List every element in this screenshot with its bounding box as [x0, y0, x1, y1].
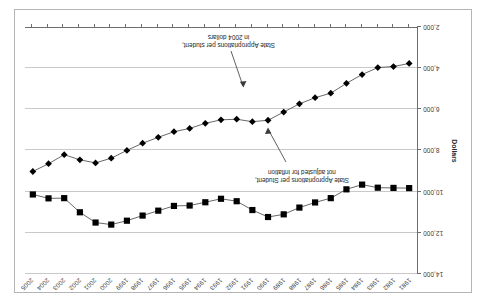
data-point-diamond [139, 140, 146, 147]
data-point-square [249, 207, 255, 213]
x-tick-label: 1994 [193, 277, 208, 292]
x-tick-label: 1989 [272, 277, 287, 292]
data-series-layer [25, 28, 417, 274]
y-tick-label: 4,000 [423, 65, 440, 72]
nominal-annotation-line1: State Appropriations per Student, [255, 176, 349, 184]
x-tick-label: 1985 [335, 277, 350, 292]
y-tick-mark [417, 26, 421, 27]
y-tick-label: 10,000 [423, 188, 443, 195]
data-point-diamond [61, 151, 68, 158]
x-tick-label: 1992 [225, 277, 240, 292]
data-point-diamond [45, 160, 52, 167]
data-point-square [265, 214, 271, 220]
data-point-diamond [76, 156, 83, 163]
data-point-square [375, 185, 381, 191]
data-point-square [202, 199, 208, 205]
y-tick-mark [417, 232, 421, 233]
data-point-square [92, 219, 98, 225]
y-tick-mark [417, 67, 421, 68]
y-tick-mark [417, 273, 421, 274]
x-tick-label: 2003 [52, 277, 67, 292]
y-axis-title: Dollars [451, 139, 458, 162]
x-tick-label: 1984 [350, 277, 365, 292]
plot-area: 2,0004,0006,0008,00010,00012,00014,000 1… [25, 27, 418, 274]
real-annotation-line1: State Appropriations per student, [182, 41, 275, 49]
x-tick-label: 1993 [209, 277, 224, 292]
x-tick-label: 1999 [114, 277, 129, 292]
y-tick-mark [417, 191, 421, 192]
data-point-diamond [92, 160, 99, 167]
data-point-square [359, 182, 365, 188]
data-point-square [390, 185, 396, 191]
data-point-diamond [327, 90, 334, 97]
y-tick-label: 8,000 [423, 147, 440, 154]
x-tick-label: 1995 [177, 277, 192, 292]
data-point-square [30, 191, 36, 197]
x-tick-label: 2004 [36, 277, 51, 292]
data-point-diamond [108, 155, 115, 162]
x-tick-label: 1991 [240, 277, 255, 292]
data-point-square [281, 211, 287, 217]
data-point-diamond [343, 80, 350, 87]
data-point-square [234, 198, 240, 204]
data-point-diamond [233, 116, 240, 123]
y-tick-label: 2,000 [423, 24, 440, 31]
data-point-square [328, 195, 334, 201]
data-point-square [406, 185, 412, 191]
x-tick-label: 1997 [146, 277, 161, 292]
data-point-diamond [312, 94, 319, 101]
x-tick-label: 1996 [162, 277, 177, 292]
nominal-annotation-line2: not adjusted for inflation [255, 168, 349, 176]
x-tick-label: 2002 [67, 277, 82, 292]
data-point-square [124, 218, 130, 224]
data-point-diamond [249, 118, 256, 125]
real-series-annotation: State Appropriations per student, in 200… [182, 33, 275, 49]
data-point-square [77, 209, 83, 215]
data-point-square [140, 212, 146, 218]
data-point-diamond [202, 120, 209, 127]
series-line [33, 185, 409, 225]
data-point-square [187, 202, 193, 208]
chart-canvas: Dollars 2,0004,0006,0008,00010,00012,000… [0, 0, 486, 300]
data-point-diamond [265, 117, 272, 124]
data-point-diamond [280, 109, 287, 116]
data-point-diamond [171, 128, 178, 135]
data-point-diamond [359, 71, 366, 78]
nominal-series-annotation: State Appropriations per Student, not ad… [255, 168, 349, 184]
data-point-diamond [218, 116, 225, 123]
data-point-diamond [155, 134, 162, 141]
data-point-diamond [186, 125, 193, 132]
data-point-square [218, 196, 224, 202]
y-tick-label: 14,000 [423, 271, 443, 278]
data-point-diamond [296, 100, 303, 107]
data-point-square [343, 186, 349, 192]
x-tick-label: 2000 [99, 277, 114, 292]
x-tick-label: 1986 [319, 277, 334, 292]
data-point-square [61, 195, 67, 201]
data-point-diamond [29, 168, 36, 175]
x-tick-label: 1987 [303, 277, 318, 292]
data-point-square [312, 199, 318, 205]
y-tick-label: 6,000 [423, 106, 440, 113]
data-point-square [45, 195, 51, 201]
data-point-diamond [124, 147, 131, 154]
data-point-square [296, 204, 302, 210]
data-point-diamond [406, 60, 413, 67]
y-tick-mark [417, 108, 421, 109]
real-annotation-line2: in 2004 dollars [182, 33, 275, 41]
x-tick-label: 1982 [382, 277, 397, 292]
x-tick-label: 2001 [83, 277, 98, 292]
data-point-diamond [374, 64, 381, 71]
chart-frame: Dollars 2,0004,0006,0008,00010,00012,000… [14, 9, 472, 293]
data-point-diamond [390, 63, 397, 70]
data-point-square [171, 203, 177, 209]
x-tick-label: 2005 [20, 277, 35, 292]
y-tick-label: 12,000 [423, 229, 443, 236]
data-point-square [155, 208, 161, 214]
x-tick-label: 1998 [130, 277, 145, 292]
x-tick-label: 1990 [256, 277, 271, 292]
y-tick-mark [417, 150, 421, 151]
x-tick-label: 1983 [366, 277, 381, 292]
data-point-square [108, 222, 114, 228]
x-tick-label: 1981 [397, 277, 412, 292]
